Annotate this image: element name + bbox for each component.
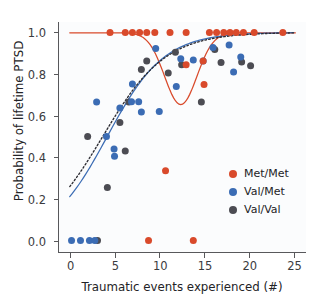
data-point (107, 29, 114, 36)
x-axis-tick-label: 10 (153, 259, 168, 273)
data-point (116, 119, 123, 126)
plot-area: 0.00.20.40.60.81.00510152025 (58, 22, 306, 253)
data-point (240, 29, 247, 36)
x-axis-tick: 20 (249, 252, 250, 258)
data-point (156, 108, 163, 115)
data-point (143, 58, 150, 65)
data-point (152, 45, 159, 52)
data-point (136, 29, 143, 36)
data-point (213, 29, 220, 36)
data-point (129, 29, 136, 36)
y-axis-label: Probability of lifetime PTSD (12, 16, 26, 226)
data-point (116, 104, 123, 111)
data-point (220, 29, 227, 36)
data-point (233, 29, 240, 36)
legend-label: Val/Met (244, 185, 285, 198)
legend-item: Val/Met (229, 185, 289, 198)
y-axis-tick-label: 1.0 (28, 25, 46, 41)
y-axis-tick-label: 0.4 (28, 150, 46, 166)
data-point (135, 98, 142, 105)
plot-canvas (59, 22, 307, 253)
data-point (201, 81, 208, 88)
data-point (218, 59, 225, 66)
data-point (93, 99, 100, 106)
data-point (230, 68, 237, 75)
data-point (103, 133, 110, 140)
fit-curve (70, 33, 296, 105)
data-point (122, 29, 129, 36)
data-point (173, 83, 180, 90)
scatter-plot-figure: 0.00.20.40.60.81.00510152025 Traumatic e… (0, 0, 329, 306)
data-point (172, 49, 179, 56)
x-axis-tick: 15 (204, 252, 205, 258)
data-point (91, 237, 98, 244)
data-point (111, 153, 118, 160)
data-point (237, 53, 244, 60)
y-axis-tick-label: 0.6 (28, 109, 46, 125)
x-axis-tick: 5 (115, 252, 116, 258)
data-point (198, 99, 205, 106)
data-point (279, 29, 286, 36)
data-point (190, 56, 197, 63)
y-axis-tick: 1.0 (54, 32, 59, 33)
data-point (190, 237, 197, 244)
data-point (104, 184, 111, 191)
x-axis-tick: 10 (159, 252, 160, 258)
legend-marker-icon (229, 206, 237, 214)
data-point (247, 62, 254, 69)
data-point (111, 145, 118, 152)
data-point (183, 29, 190, 36)
data-point (138, 66, 145, 73)
y-axis-tick: 0.4 (54, 157, 59, 158)
data-point (68, 237, 75, 244)
x-axis-tick-label: 15 (198, 259, 213, 273)
data-point (183, 61, 190, 68)
y-axis-tick-label: 0.0 (28, 234, 46, 250)
x-axis-tick-label: 0 (67, 259, 74, 273)
y-axis-tick: 0.2 (54, 199, 59, 200)
y-axis-tick-label: 0.8 (28, 67, 46, 83)
legend-label: Met/Met (244, 167, 289, 180)
legend-label: Val/Val (244, 203, 281, 216)
y-axis-tick: 0.6 (54, 116, 59, 117)
data-point (143, 29, 150, 36)
data-point (167, 29, 174, 36)
y-axis-tick: 0.0 (54, 241, 59, 242)
data-point (209, 44, 216, 51)
x-axis-tick-label: 25 (287, 259, 302, 273)
x-axis-label: Traumatic events experienced (#) (58, 280, 306, 294)
x-axis-tick: 25 (294, 252, 295, 258)
data-point (251, 29, 258, 36)
legend-item: Val/Val (229, 203, 289, 216)
data-point (77, 237, 84, 244)
data-point (177, 55, 184, 62)
legend: Met/MetVal/MetVal/Val (229, 167, 289, 216)
legend-item: Met/Met (229, 167, 289, 180)
data-point (200, 58, 207, 65)
data-point (227, 29, 234, 36)
data-point (226, 41, 233, 48)
data-point (128, 98, 135, 105)
data-point (151, 29, 158, 36)
data-point (129, 81, 136, 88)
data-point (138, 109, 145, 116)
x-axis-tick-label: 5 (112, 259, 119, 273)
y-axis-tick: 0.8 (54, 74, 59, 75)
x-axis-tick-label: 20 (242, 259, 257, 273)
data-point (162, 167, 169, 174)
data-point (84, 133, 91, 140)
legend-marker-icon (229, 188, 237, 196)
data-point (145, 237, 152, 244)
data-point (206, 29, 213, 36)
data-point (122, 148, 129, 155)
data-point (165, 69, 172, 76)
x-axis-tick: 0 (70, 252, 71, 258)
legend-marker-icon (229, 170, 237, 178)
y-axis-tick-label: 0.2 (28, 192, 46, 208)
